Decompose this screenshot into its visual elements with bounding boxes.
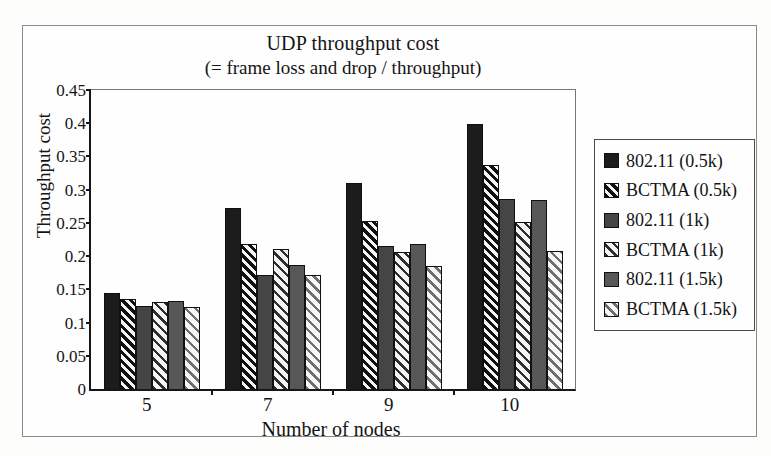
bar-802.11-1k--nodes-5 — [136, 306, 152, 389]
figure-frame: UDP throughput cost (= frame loss and dr… — [22, 25, 757, 437]
y-tick-label: 0.35 — [56, 148, 86, 165]
y-tick-label: 0.25 — [56, 214, 86, 231]
legend: 802.11 (0.5k)BCTMA (0.5k)802.11 (1k)BCTM… — [594, 139, 755, 331]
bar-802.11-1k--nodes-10 — [499, 199, 515, 389]
y-tick-label: 0.15 — [56, 281, 86, 298]
legend-item-802.11-1k-: 802.11 (1k) — [604, 207, 754, 234]
legend-swatch-icon — [604, 242, 619, 257]
legend-item-802.11-1.5k-: 802.11 (1.5k) — [604, 266, 754, 293]
bar-bctma-1k--nodes-5 — [152, 302, 168, 389]
legend-swatch-icon — [604, 302, 619, 317]
bar-bctma-0.5k--nodes-5 — [120, 299, 136, 389]
x-tick-mark — [332, 389, 334, 395]
plot-area: 00.050.10.150.20.250.30.350.40.4557910 — [89, 89, 576, 391]
x-tick-label: 10 — [500, 395, 519, 414]
bar-802.11-1k--nodes-7 — [257, 275, 273, 389]
y-tick-label: 0.2 — [65, 248, 86, 265]
y-tick-mark — [86, 122, 91, 124]
bar-bctma-0.5k--nodes-10 — [483, 165, 499, 389]
legend-label: 802.11 (1.5k) — [626, 270, 723, 288]
x-tick-label: 5 — [142, 395, 152, 414]
bar-802.11-1.5k--nodes-5 — [168, 301, 184, 389]
x-tick-mark — [453, 389, 455, 395]
y-tick-mark — [86, 155, 91, 157]
y-tick-mark — [86, 89, 91, 91]
y-tick-mark — [86, 189, 91, 191]
bar-bctma-1k--nodes-7 — [273, 249, 289, 389]
legend-swatch-icon — [604, 153, 619, 168]
bar-802.11-0.5k--nodes-5 — [104, 293, 120, 389]
bar-bctma-1.5k--nodes-7 — [305, 275, 321, 389]
bar-bctma-1.5k--nodes-10 — [547, 251, 563, 389]
bar-group-5 — [91, 90, 212, 389]
legend-label: 802.11 (1k) — [626, 211, 709, 229]
y-tick-label: 0 — [78, 381, 87, 398]
y-tick-label: 0.4 — [65, 115, 86, 132]
figure: UDP throughput cost (= frame loss and dr… — [0, 0, 771, 456]
legend-label: 802.11 (0.5k) — [626, 152, 723, 170]
legend-label: BCTMA (1k) — [626, 241, 724, 259]
y-tick-label: 0.45 — [56, 82, 86, 99]
y-tick-mark — [86, 322, 91, 324]
bar-802.11-0.5k--nodes-7 — [225, 208, 241, 389]
legend-item-bctma-1k-: BCTMA (1k) — [604, 236, 754, 263]
bar-bctma-0.5k--nodes-9 — [362, 221, 378, 389]
bar-bctma-1k--nodes-10 — [515, 222, 531, 389]
x-axis-title: Number of nodes — [89, 418, 573, 441]
bar-group-10 — [454, 90, 575, 389]
bar-group-7 — [212, 90, 333, 389]
bar-802.11-1.5k--nodes-10 — [531, 200, 547, 389]
y-tick-label: 0.1 — [65, 314, 86, 331]
bar-802.11-1k--nodes-9 — [378, 246, 394, 389]
legend-item-bctma-0.5k-: BCTMA (0.5k) — [604, 177, 754, 204]
legend-label: BCTMA (1.5k) — [626, 300, 737, 318]
bar-bctma-1.5k--nodes-9 — [426, 266, 442, 389]
y-tick-mark — [86, 288, 91, 290]
legend-item-bctma-1.5k-: BCTMA (1.5k) — [604, 296, 754, 323]
y-tick-mark — [86, 255, 91, 257]
y-tick-label: 0.3 — [65, 181, 86, 198]
bar-bctma-1k--nodes-9 — [394, 252, 410, 389]
y-tick-label: 0.05 — [56, 347, 86, 364]
legend-item-802.11-0.5k-: 802.11 (0.5k) — [604, 147, 754, 174]
bar-802.11-0.5k--nodes-10 — [467, 124, 483, 389]
y-axis-title: Throughput cost — [33, 113, 55, 238]
legend-swatch-icon — [604, 183, 619, 198]
x-tick-label: 9 — [384, 395, 394, 414]
legend-swatch-icon — [604, 213, 619, 228]
bar-802.11-0.5k--nodes-9 — [346, 183, 362, 389]
bar-802.11-1.5k--nodes-9 — [410, 244, 426, 390]
chart-title: UDP throughput cost — [111, 32, 595, 55]
bar-802.11-1.5k--nodes-7 — [289, 265, 305, 389]
chart-subtitle: (= frame loss and drop / throughput) — [93, 57, 593, 79]
bar-group-9 — [333, 90, 454, 389]
bar-bctma-0.5k--nodes-7 — [241, 244, 257, 389]
x-tick-mark — [211, 389, 213, 395]
bar-groups — [91, 90, 575, 389]
bar-bctma-1.5k--nodes-5 — [184, 307, 200, 389]
y-tick-mark — [86, 355, 91, 357]
x-tick-label: 7 — [263, 395, 273, 414]
y-tick-mark — [86, 222, 91, 224]
legend-label: BCTMA (0.5k) — [626, 181, 737, 199]
legend-swatch-icon — [604, 272, 619, 287]
